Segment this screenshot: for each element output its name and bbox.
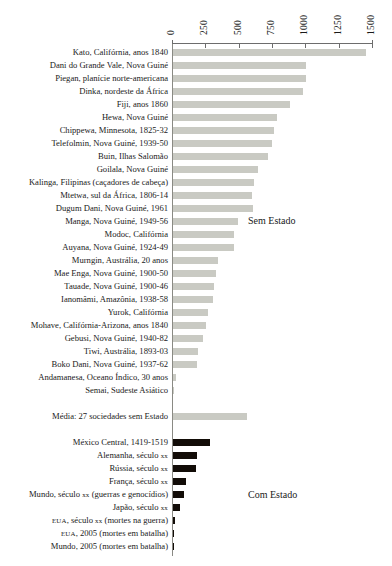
- group-annotation-state: Com Estado: [248, 489, 297, 500]
- bar-row-label: EUA, século xx (mortes na guerra): [52, 514, 168, 527]
- bar-row: França, século xx: [0, 475, 392, 488]
- bar-row-label: Modoc, Califórnia: [105, 228, 168, 241]
- bar-row-label: Mtetwa, sul da África, 1806-14: [60, 189, 168, 202]
- bar-row: Kalinga, Filipinas (caçadores de cabeça): [0, 176, 392, 189]
- bar-row-label: Auyana, Nova Guiné, 1924-49: [62, 241, 168, 254]
- bar-row: Boko Dani, Nova Guiné, 1937-62: [0, 358, 392, 371]
- bar-row: México Central, 1419-1519: [0, 436, 392, 449]
- bar-row-label: Média: 27 sociedades sem Estado: [52, 410, 168, 423]
- bar-row-label: Manga, Nova Guiné, 1949-56: [65, 215, 168, 228]
- bar-row: Modoc, Califórnia: [0, 228, 392, 241]
- bar-row: Mae Enga, Nova Guiné, 1900-50: [0, 267, 392, 280]
- bar-row-label: Tiwi, Austrália, 1893-03: [84, 345, 168, 358]
- bar: [173, 309, 208, 316]
- bar: [173, 335, 203, 342]
- bar-row: Mtetwa, sul da África, 1806-14: [0, 189, 392, 202]
- bar-row-label: Mundo, 2005 (mortes em batalha): [51, 540, 168, 553]
- bar-row-label: Murngin, Austrália, 20 anos: [72, 254, 168, 267]
- bar: [173, 296, 213, 303]
- bar-row: Gebusi, Nova Guiné, 1940-82: [0, 332, 392, 345]
- bar: [173, 322, 206, 329]
- bar-row-label: EUA, 2005 (mortes em batalha): [61, 527, 168, 540]
- bar: [173, 543, 174, 550]
- x-axis-tick-label: 250: [199, 20, 209, 35]
- bar-row: Murngin, Austrália, 20 anos: [0, 254, 392, 267]
- bar: [173, 101, 290, 108]
- bar: [173, 244, 234, 251]
- bar-row: Hewa, Nova Guiné: [0, 111, 392, 124]
- bar: [173, 439, 210, 446]
- bar-row: Fiji, anos 1860: [0, 98, 392, 111]
- x-axis-tick-label: 500: [233, 20, 243, 35]
- bar-row: Dugum Dani, Nova Guiné, 1961: [0, 202, 392, 215]
- bar-row: Goilala, Nova Guiné: [0, 163, 392, 176]
- x-axis-tick-label: 1000: [299, 15, 309, 35]
- bar: [173, 231, 234, 238]
- bar: [173, 517, 175, 524]
- bar: [173, 504, 180, 511]
- bar: [173, 49, 366, 56]
- bar-row: Semai, Sudeste Asiático: [0, 384, 392, 397]
- bar-row-label: Alemanha, século xx: [97, 449, 168, 462]
- bar-row: Mundo, século xx (guerras e genocídios): [0, 488, 392, 501]
- x-axis-tick-label: 0: [166, 30, 176, 35]
- bar-row-label: Goilala, Nova Guiné: [97, 163, 168, 176]
- bar-row-label: Mae Enga, Nova Guiné, 1900-50: [54, 267, 168, 280]
- bar-row: Telefolmin, Nova Guiné, 1939-50: [0, 137, 392, 150]
- bar-row: Andamanesa, Oceano Índico, 30 anos: [0, 371, 392, 384]
- bar: [173, 530, 174, 537]
- bar: [173, 192, 252, 199]
- bar: [173, 75, 306, 82]
- bar-row: Rússia, século xx: [0, 462, 392, 475]
- bar-row-label: México Central, 1419-1519: [73, 436, 168, 449]
- bar: [173, 218, 238, 225]
- bar-row-label: Gebusi, Nova Guiné, 1940-82: [65, 332, 168, 345]
- bar: [173, 491, 184, 498]
- bar-row-label: Tauade, Nova Guiné, 1900-46: [64, 280, 168, 293]
- bar-row: Alemanha, século xx: [0, 449, 392, 462]
- bar-row-label: Mundo, século xx (guerras e genocídios): [29, 488, 168, 501]
- bar: [173, 348, 198, 355]
- bar-row: Tiwi, Austrália, 1893-03: [0, 345, 392, 358]
- bar: [173, 257, 218, 264]
- bar: [173, 478, 186, 485]
- bar-row: Tauade, Nova Guiné, 1900-46: [0, 280, 392, 293]
- row-spacer: [0, 397, 392, 410]
- bar-row: EUA, 2005 (mortes em batalha): [0, 527, 392, 540]
- bar-row: Chippewa, Minnesota, 1825-32: [0, 124, 392, 137]
- bar-row-label: Japão, século xx: [113, 501, 168, 514]
- bar-row-label: Piegan, planície norte-americana: [55, 72, 168, 85]
- bar-row: Mohave, Califórnia-Arizona, anos 1840: [0, 319, 392, 332]
- bar-row: Kato, Califórnia, anos 1840: [0, 46, 392, 59]
- bar-row-label: Ianomâmi, Amazônia, 1938-58: [61, 293, 168, 306]
- bar: [173, 374, 176, 381]
- bar-row: Manga, Nova Guiné, 1949-56: [0, 215, 392, 228]
- bar-row-label: Chippewa, Minnesota, 1825-32: [60, 124, 168, 137]
- bar-row: Japão, século xx: [0, 501, 392, 514]
- bar-row-label: Kato, Califórnia, anos 1840: [73, 46, 168, 59]
- bar-row-label: Dani do Grande Vale, Nova Guiné: [50, 59, 168, 72]
- bar: [173, 465, 196, 472]
- bar-row-label: Mohave, Califórnia-Arizona, anos 1840: [31, 319, 168, 332]
- bar-row: Média: 27 sociedades sem Estado: [0, 410, 392, 423]
- bar-row: Ianomâmi, Amazônia, 1938-58: [0, 293, 392, 306]
- x-axis-tick-label: 1250: [333, 15, 343, 35]
- bar-row: Mundo, 2005 (mortes em batalha): [0, 540, 392, 553]
- bar: [173, 166, 258, 173]
- bar: [173, 452, 197, 459]
- bar-row: Buin, Ilhas Salomão: [0, 150, 392, 163]
- x-axis: 0250500750100012501500: [0, 0, 392, 46]
- bar: [173, 127, 274, 134]
- bar-chart: 0250500750100012501500 Kato, Califórnia,…: [0, 0, 392, 566]
- bar: [173, 114, 277, 121]
- bar-row: Auyana, Nova Guiné, 1924-49: [0, 241, 392, 254]
- bar: [173, 62, 306, 69]
- bar-row-label: Semai, Sudeste Asiático: [85, 384, 168, 397]
- bar-row: Dani do Grande Vale, Nova Guiné: [0, 59, 392, 72]
- row-spacer: [0, 423, 392, 436]
- bar-rows: Kato, Califórnia, anos 1840Dani do Grand…: [0, 46, 392, 553]
- bar-row: EUA, século xx (mortes na guerra): [0, 514, 392, 527]
- bar-row-label: Rússia, século xx: [109, 462, 168, 475]
- bar: [173, 387, 174, 394]
- bar: [173, 205, 253, 212]
